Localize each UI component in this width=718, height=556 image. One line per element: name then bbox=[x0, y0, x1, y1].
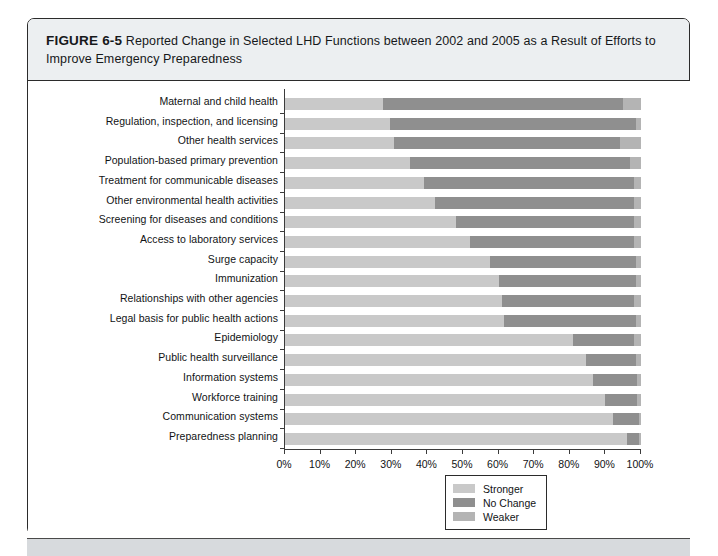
y-axis-label: Information systems bbox=[183, 371, 278, 383]
y-axis-tick bbox=[280, 231, 285, 232]
x-axis-tick-label: 80% bbox=[558, 458, 579, 470]
bar-row bbox=[285, 433, 641, 445]
y-axis-label: Communication systems bbox=[163, 410, 278, 422]
bar-segment-weaker bbox=[634, 216, 641, 228]
bar-segment-no-change bbox=[490, 256, 636, 268]
bar-row bbox=[285, 394, 641, 406]
x-axis-tick bbox=[284, 449, 285, 454]
bar-segment-stronger bbox=[285, 137, 394, 149]
y-axis-tick bbox=[280, 389, 285, 390]
legend-entry: No Change bbox=[453, 496, 536, 509]
page-bottom-strip bbox=[27, 538, 690, 556]
chart-panel: Maternal and child healthRegulation, ins… bbox=[28, 81, 691, 536]
x-axis-tick-label: 60% bbox=[487, 458, 508, 470]
x-axis: 0%10%20%30%40%50%60%70%80%90%100% bbox=[284, 449, 641, 450]
x-axis-tick bbox=[320, 449, 321, 454]
bar-row bbox=[285, 256, 641, 268]
bar-segment-weaker bbox=[636, 315, 641, 327]
y-axis-label: Screening for diseases and conditions bbox=[99, 213, 278, 225]
bar-segment-weaker bbox=[637, 394, 641, 406]
x-axis-tick-label: 30% bbox=[380, 458, 401, 470]
bar-segment-no-change bbox=[456, 216, 634, 228]
bar-row bbox=[285, 315, 641, 327]
x-axis-tick bbox=[569, 449, 570, 454]
bar-segment-stronger bbox=[285, 98, 383, 110]
figure-box: FIGURE 6-5 Reported Change in Selected L… bbox=[27, 18, 690, 535]
bar-row bbox=[285, 236, 641, 248]
bar-row bbox=[285, 295, 641, 307]
y-axis-label: Relationships with other agencies bbox=[120, 292, 278, 304]
bar-segment-weaker bbox=[637, 374, 641, 386]
bar-segment-weaker bbox=[636, 275, 641, 287]
bar-row bbox=[285, 334, 641, 346]
x-axis-tick-label: 40% bbox=[416, 458, 437, 470]
y-axis-category-labels: Maternal and child healthRegulation, ins… bbox=[41, 89, 284, 449]
x-axis-tick bbox=[533, 449, 534, 454]
bar-segment-weaker bbox=[634, 236, 641, 248]
bar-segment-no-change bbox=[502, 295, 634, 307]
x-axis-tick-label: 100% bbox=[627, 458, 654, 470]
bar-segment-weaker bbox=[623, 98, 641, 110]
bar-segment-stronger bbox=[285, 354, 586, 366]
bar-row bbox=[285, 118, 641, 130]
bar-segment-weaker bbox=[639, 433, 641, 445]
x-axis-tick-label: 0% bbox=[276, 458, 291, 470]
bar-segment-stronger bbox=[285, 118, 390, 130]
figure-number: FIGURE 6-5 bbox=[46, 33, 122, 48]
bar-segment-weaker bbox=[634, 197, 641, 209]
plot-wrapper: Maternal and child healthRegulation, ins… bbox=[41, 89, 677, 499]
x-axis-tick bbox=[391, 449, 392, 454]
bar-segment-no-change bbox=[410, 157, 631, 169]
legend-label: Stronger bbox=[483, 483, 523, 495]
y-axis-label: Treatment for communicable diseases bbox=[99, 174, 278, 186]
y-axis-label: Preparedness planning bbox=[169, 430, 278, 442]
y-axis-label: Access to laboratory services bbox=[140, 233, 278, 245]
bar-row bbox=[285, 177, 641, 189]
bar-segment-stronger bbox=[285, 334, 573, 346]
bar-row bbox=[285, 374, 641, 386]
bar-row bbox=[285, 197, 641, 209]
bar-segment-weaker bbox=[620, 137, 641, 149]
bar-segment-weaker bbox=[636, 354, 641, 366]
bar-row bbox=[285, 137, 641, 149]
y-axis-label: Legal basis for public health actions bbox=[110, 312, 278, 324]
bar-segment-no-change bbox=[504, 315, 636, 327]
no-change-swatch bbox=[453, 498, 475, 507]
bar-segment-no-change bbox=[613, 413, 640, 425]
x-axis-tick bbox=[426, 449, 427, 454]
x-axis-tick bbox=[640, 449, 641, 454]
x-axis-tick bbox=[604, 449, 605, 454]
bar-row bbox=[285, 216, 641, 228]
bar-segment-no-change bbox=[435, 197, 634, 209]
y-axis-label: Public health surveillance bbox=[158, 351, 278, 363]
stronger-swatch bbox=[453, 484, 475, 493]
y-axis-tick bbox=[280, 369, 285, 370]
x-axis-tick bbox=[462, 449, 463, 454]
bar-segment-stronger bbox=[285, 256, 490, 268]
bar-segment-stronger bbox=[285, 295, 502, 307]
legend-label: No Change bbox=[483, 497, 536, 509]
y-axis-label: Population-based primary prevention bbox=[105, 154, 278, 166]
bar-row bbox=[285, 354, 641, 366]
y-axis-tick bbox=[280, 133, 285, 134]
bar-segment-no-change bbox=[390, 118, 636, 130]
bar-segment-weaker bbox=[634, 177, 641, 189]
y-axis-label: Surge capacity bbox=[208, 253, 278, 265]
x-axis-tick bbox=[498, 449, 499, 454]
figure-caption-band: FIGURE 6-5 Reported Change in Selected L… bbox=[28, 19, 689, 81]
bar-row bbox=[285, 98, 641, 110]
y-axis-label: Other environmental health activities bbox=[106, 194, 278, 206]
legend-entry: Stronger bbox=[453, 482, 536, 495]
y-axis-tick bbox=[280, 152, 285, 153]
bar-segment-weaker bbox=[634, 334, 641, 346]
bar-row bbox=[285, 157, 641, 169]
y-axis-tick bbox=[280, 271, 285, 272]
plot-area bbox=[284, 89, 654, 449]
y-axis-tick bbox=[280, 192, 285, 193]
bar-segment-stronger bbox=[285, 197, 435, 209]
x-axis-tick-label: 90% bbox=[594, 458, 615, 470]
legend-entry: Weaker bbox=[453, 510, 536, 523]
bar-segment-stronger bbox=[285, 433, 627, 445]
bar-segment-no-change bbox=[424, 177, 634, 189]
y-axis-tick bbox=[280, 172, 285, 173]
